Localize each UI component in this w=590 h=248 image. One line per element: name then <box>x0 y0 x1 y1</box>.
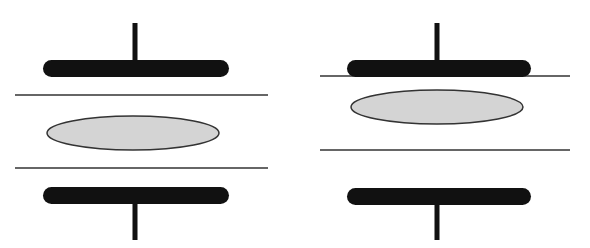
diagram-canvas <box>0 0 590 248</box>
dielectric-ellipse <box>47 116 219 150</box>
top-electrode-stem <box>435 23 440 62</box>
top-electrode-stem <box>133 23 138 62</box>
top-electrode-plate <box>347 60 531 77</box>
bottom-electrode-plate <box>347 188 531 205</box>
dielectric-ellipse <box>351 90 523 124</box>
bottom-electrode-stem <box>133 202 138 240</box>
bottom-electrode-stem <box>435 203 440 240</box>
top-electrode-plate <box>43 60 229 77</box>
capacitor-diagram <box>0 0 590 248</box>
bottom-electrode-plate <box>43 187 229 204</box>
